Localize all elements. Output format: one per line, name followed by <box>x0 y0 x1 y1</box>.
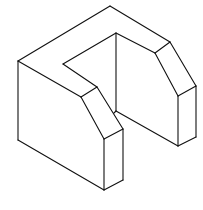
slot-floor-front <box>114 111 116 113</box>
slot-inner-left-edge <box>63 64 97 87</box>
top-left-edge <box>18 6 110 61</box>
front-chamfer-right <box>97 87 123 129</box>
slot-floor-edge <box>116 111 178 146</box>
front-bottom-edge <box>104 180 123 190</box>
left-top-front-edge <box>18 61 81 97</box>
top-right-edge <box>110 6 170 42</box>
isometric-block-drawing <box>0 0 203 210</box>
right-chamfer-top <box>155 42 170 53</box>
right-chamfer-left <box>155 53 178 96</box>
right-bottom-edge <box>178 137 196 146</box>
right-chamfer-bottom <box>178 86 196 96</box>
slot-inner-right-top <box>116 33 155 53</box>
front-chamfer-top <box>81 87 97 97</box>
front-chamfer-left <box>81 97 104 139</box>
left-bottom-edge <box>18 140 104 190</box>
front-chamfer-bottom <box>104 129 123 139</box>
slot-inner-back-edge <box>63 33 116 64</box>
right-chamfer-right <box>170 42 196 86</box>
